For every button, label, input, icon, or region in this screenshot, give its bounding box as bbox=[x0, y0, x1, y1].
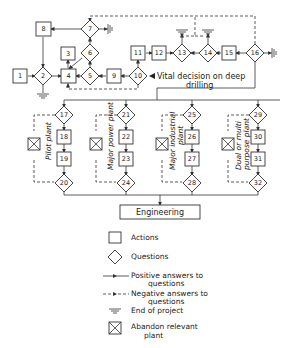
question-node-24: 24 bbox=[117, 174, 135, 192]
branch-label-dual-2: purpose plant bbox=[242, 117, 251, 171]
svg-text:3: 3 bbox=[66, 50, 70, 58]
end-of-project-icon bbox=[37, 94, 49, 98]
action-node-19: 19 bbox=[57, 152, 71, 166]
svg-text:23: 23 bbox=[122, 155, 130, 163]
question-node-32: 32 bbox=[249, 174, 267, 192]
abandon-plant-icon bbox=[28, 138, 40, 150]
svg-text:31: 31 bbox=[254, 155, 262, 163]
svg-text:6: 6 bbox=[88, 49, 92, 57]
end-of-project-icon bbox=[108, 24, 112, 34]
abandon-plant-icon bbox=[156, 138, 168, 150]
action-node-3: 3 bbox=[61, 47, 75, 60]
svg-text:17: 17 bbox=[60, 111, 68, 119]
svg-text:32: 32 bbox=[254, 179, 262, 187]
engineering-box: Engineering bbox=[120, 205, 200, 219]
action-node-8: 8 bbox=[36, 22, 51, 36]
svg-text:11: 11 bbox=[134, 49, 142, 57]
question-node-29: 29 bbox=[249, 106, 267, 124]
svg-text:1: 1 bbox=[18, 72, 22, 80]
action-node-23: 23 bbox=[119, 152, 133, 166]
svg-text:13: 13 bbox=[178, 49, 186, 57]
svg-text:14: 14 bbox=[204, 49, 212, 57]
flowchart: 1 3 4 8 9 11 12 15 18 19 22 23 26 27 30 … bbox=[0, 0, 285, 348]
svg-text:26: 26 bbox=[188, 133, 196, 141]
question-node-2: 2 bbox=[34, 67, 52, 85]
svg-text:Actions: Actions bbox=[131, 233, 158, 242]
question-node-13: 13 bbox=[173, 44, 191, 62]
question-node-5: 5 bbox=[81, 67, 99, 85]
action-node-26: 26 bbox=[185, 130, 199, 144]
question-node-17: 17 bbox=[55, 106, 73, 124]
svg-text:Abandon relevant: Abandon relevant bbox=[131, 322, 198, 331]
end-of-project-icon bbox=[202, 30, 214, 34]
vital-decision-label: Vital decision on deep bbox=[157, 72, 245, 81]
action-node-4: 4 bbox=[61, 69, 76, 83]
end-of-project-icon bbox=[272, 48, 276, 58]
svg-text:9: 9 bbox=[112, 72, 116, 80]
abandon-plant-icon bbox=[90, 138, 102, 150]
svg-text:19: 19 bbox=[60, 155, 68, 163]
legend-action-icon bbox=[109, 232, 121, 243]
question-node-16: 16 bbox=[246, 44, 264, 62]
svg-text:29: 29 bbox=[254, 111, 262, 119]
question-node-21: 21 bbox=[117, 106, 135, 124]
action-node-12: 12 bbox=[152, 46, 166, 60]
question-node-28: 28 bbox=[183, 174, 201, 192]
question-node-25: 25 bbox=[183, 106, 201, 124]
svg-text:8: 8 bbox=[41, 25, 45, 33]
svg-text:Questions: Questions bbox=[131, 252, 169, 261]
legend-end-icon bbox=[109, 309, 121, 313]
action-node-31: 31 bbox=[251, 152, 265, 166]
branch-label-industrial-2: plant bbox=[176, 125, 185, 146]
question-node-14: 14 bbox=[199, 44, 217, 62]
question-node-7: 7 bbox=[81, 20, 99, 38]
svg-text:10: 10 bbox=[134, 72, 142, 80]
svg-text:20: 20 bbox=[60, 179, 68, 187]
svg-text:plant: plant bbox=[144, 331, 163, 340]
svg-text:15: 15 bbox=[225, 49, 233, 57]
question-node-20: 20 bbox=[55, 174, 73, 192]
action-node-9: 9 bbox=[107, 69, 121, 83]
svg-text:Engineering: Engineering bbox=[136, 208, 184, 217]
svg-text:questions: questions bbox=[148, 297, 184, 306]
legend-abandon-icon bbox=[109, 322, 121, 334]
question-node-10: 10 bbox=[129, 67, 147, 85]
svg-text:28: 28 bbox=[188, 179, 196, 187]
svg-text:4: 4 bbox=[66, 72, 70, 80]
svg-text:30: 30 bbox=[254, 133, 262, 141]
svg-text:2: 2 bbox=[41, 72, 45, 80]
svg-text:12: 12 bbox=[155, 49, 163, 57]
svg-text:25: 25 bbox=[188, 111, 196, 119]
branch-label-pilot: Pilot plant bbox=[44, 121, 53, 160]
pointer-arrow-icon bbox=[149, 73, 155, 79]
svg-text:18: 18 bbox=[60, 133, 68, 141]
action-node-1: 1 bbox=[13, 69, 27, 83]
svg-text:5: 5 bbox=[88, 72, 92, 80]
svg-text:22: 22 bbox=[122, 133, 130, 141]
svg-text:16: 16 bbox=[251, 49, 259, 57]
abandon-plant-icon bbox=[222, 138, 234, 150]
question-node-6: 6 bbox=[81, 44, 99, 62]
legend-question-icon bbox=[108, 250, 122, 264]
vital-decision-label-2: drilling bbox=[186, 81, 213, 90]
end-of-project-icon bbox=[176, 30, 188, 34]
legend: Actions Questions Positive answers to qu… bbox=[103, 232, 208, 340]
svg-text:27: 27 bbox=[188, 155, 196, 163]
svg-text:End of project: End of project bbox=[131, 306, 183, 315]
svg-text:7: 7 bbox=[88, 25, 92, 33]
action-node-11: 11 bbox=[131, 46, 145, 60]
action-node-18: 18 bbox=[57, 130, 71, 144]
action-node-22: 22 bbox=[119, 130, 133, 144]
action-node-27: 27 bbox=[185, 152, 199, 166]
svg-text:21: 21 bbox=[122, 111, 130, 119]
action-node-15: 15 bbox=[222, 46, 236, 60]
branch-label-power: Major power plant bbox=[106, 101, 115, 170]
action-node-30: 30 bbox=[251, 130, 265, 144]
svg-text:questions: questions bbox=[148, 279, 184, 288]
svg-text:24: 24 bbox=[122, 179, 130, 187]
